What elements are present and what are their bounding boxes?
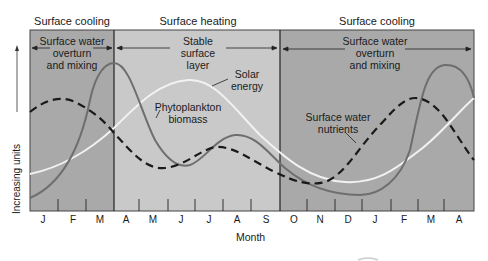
month-label: M bbox=[421, 214, 441, 225]
phase-stable-line1: Stable bbox=[158, 35, 238, 47]
label-solar-energy: Solar energy bbox=[222, 69, 272, 92]
phase-stable-line2: surface bbox=[158, 47, 238, 59]
faint-mark bbox=[358, 258, 378, 260]
phase-overturn-1-line2: overturn bbox=[30, 47, 114, 59]
month-label: O bbox=[284, 214, 304, 225]
y-axis-arrow-head bbox=[15, 45, 19, 51]
month-label: J bbox=[33, 214, 53, 225]
season-label-heating: Surface heating bbox=[140, 15, 256, 27]
month-label: J bbox=[199, 214, 219, 225]
phase-overturn-2-line1: Surface water bbox=[330, 35, 420, 47]
month-label: F bbox=[63, 214, 83, 225]
month-label: J bbox=[365, 214, 385, 225]
phase-overturn-2: Surface water overturn and mixing bbox=[330, 35, 420, 71]
month-label: S bbox=[256, 214, 276, 225]
phase-overturn-1-line3: and mixing bbox=[30, 59, 114, 71]
phase-overturn-2-line2: overturn bbox=[330, 47, 420, 59]
phase-overturn-1: Surface water overturn and mixing bbox=[30, 35, 114, 71]
label-phyto-line1: Phytoplankton bbox=[148, 102, 228, 114]
label-nutrients: Surface water nutrients bbox=[298, 112, 378, 135]
label-nutrients-line2: nutrients bbox=[298, 124, 378, 136]
y-axis-label: Increasing units bbox=[11, 144, 22, 214]
phase-stable: Stable surface layer bbox=[158, 35, 238, 71]
label-solar-line2: energy bbox=[222, 81, 272, 93]
label-nutrients-line1: Surface water bbox=[298, 112, 378, 124]
x-axis-label: Month bbox=[236, 231, 265, 243]
month-label: N bbox=[310, 214, 330, 225]
month-label: A bbox=[116, 214, 136, 225]
month-label: J bbox=[171, 214, 191, 225]
season-label-cooling-2: Surface cooling bbox=[310, 15, 444, 27]
label-phytoplankton: Phytoplankton biomass bbox=[148, 102, 228, 125]
label-solar-line1: Solar bbox=[222, 69, 272, 81]
phase-overturn-1-line1: Surface water bbox=[30, 35, 114, 47]
month-label: A bbox=[449, 214, 469, 225]
month-label: M bbox=[143, 214, 163, 225]
month-label: D bbox=[338, 214, 358, 225]
label-phyto-line2: biomass bbox=[148, 114, 228, 126]
month-label: M bbox=[90, 214, 110, 225]
phase-overturn-2-line3: and mixing bbox=[330, 59, 420, 71]
month-label: F bbox=[394, 214, 414, 225]
season-label-cooling-1: Surface cooling bbox=[10, 15, 134, 27]
month-label: A bbox=[227, 214, 247, 225]
